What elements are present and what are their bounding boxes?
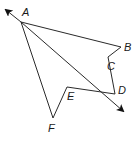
segment-fe [53,87,67,118]
label-b: B [124,41,131,53]
label-c: C [107,60,115,72]
label-f: F [48,122,56,134]
label-a: A [21,6,29,18]
segment-bc [108,47,121,57]
line-ad-arrow [6,10,21,22]
geometry-diagram: A B C D E F [0,0,139,143]
label-e: E [67,90,75,102]
label-d: D [118,84,126,96]
